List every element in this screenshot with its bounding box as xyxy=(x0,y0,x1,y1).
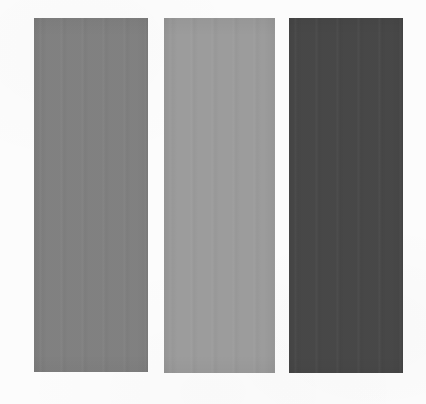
swatch-light-gray xyxy=(164,18,275,373)
swatch-dark-gray xyxy=(289,18,403,373)
edge-vignette xyxy=(34,18,148,372)
edge-vignette xyxy=(164,18,275,373)
edge-vignette xyxy=(289,18,403,373)
swatch-medium-gray xyxy=(34,18,148,372)
figure-canvas xyxy=(0,0,426,404)
